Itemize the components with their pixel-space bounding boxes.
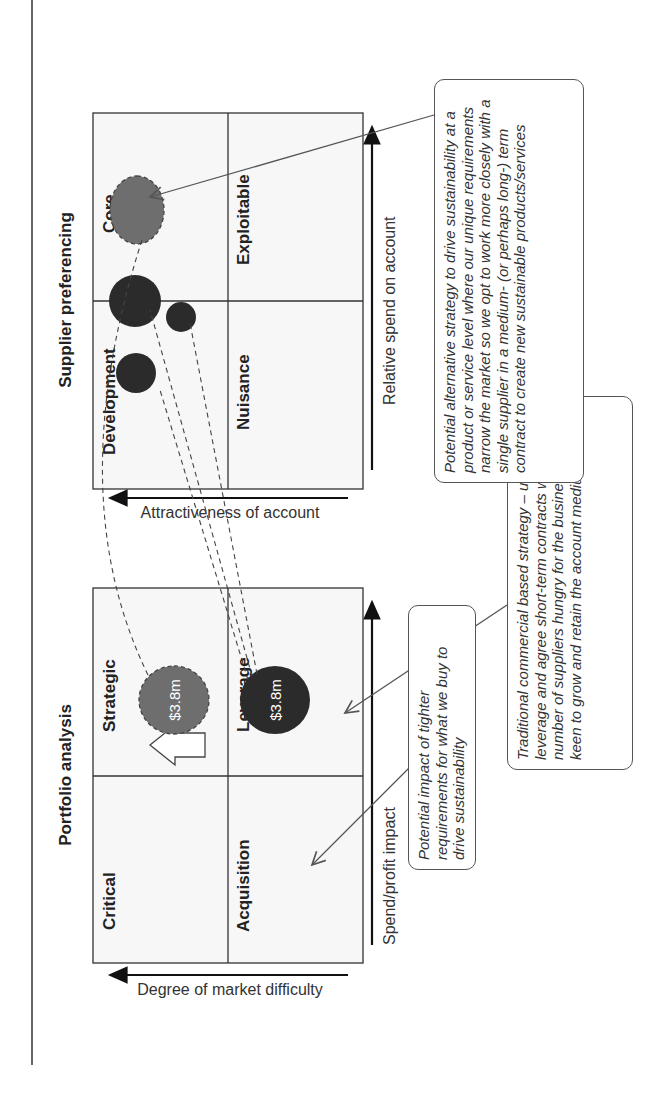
bubble-core — [110, 176, 164, 244]
quadrant-strategic: Strategic — [100, 659, 119, 732]
bubble-strategic-label: $3.8m — [166, 679, 183, 721]
bubble-development-2 — [109, 275, 161, 327]
quadrant-nuisance: Nuisance — [234, 354, 253, 430]
callout-tighter-requirements: Potential impact of tighter requirements… — [408, 605, 476, 870]
quadrant-critical: Critical — [100, 872, 119, 930]
quadrant-acquisition: Acquisition — [234, 839, 253, 932]
bubble-leverage-label: $3.8m — [267, 679, 284, 721]
bubble-development-3 — [166, 302, 196, 332]
quadrant-exploitable: Exploitable — [234, 174, 253, 265]
portfolio-y-axis-label: Degree of market difficulty — [137, 981, 323, 998]
portfolio-title: Portfolio analysis — [56, 704, 75, 846]
diagram-stage: Portfolio analysis Critical Strategic Ac… — [0, 0, 661, 1095]
portfolio-x-axis-label: Spend/profit impact — [381, 807, 398, 945]
supplier-x-axis-label: Relative spend on account — [381, 216, 398, 405]
bubble-development-1 — [116, 353, 156, 393]
supplier-title: Supplier preferencing — [56, 212, 75, 388]
supplier-y-axis-label: Attractiveness of account — [141, 504, 320, 521]
callout-alternative-strategy: Potential alternative strategy to drive … — [434, 79, 584, 483]
portfolio-analysis-panel: Portfolio analysis Critical Strategic Ac… — [56, 588, 398, 998]
quadrant-development: Development — [100, 348, 119, 455]
